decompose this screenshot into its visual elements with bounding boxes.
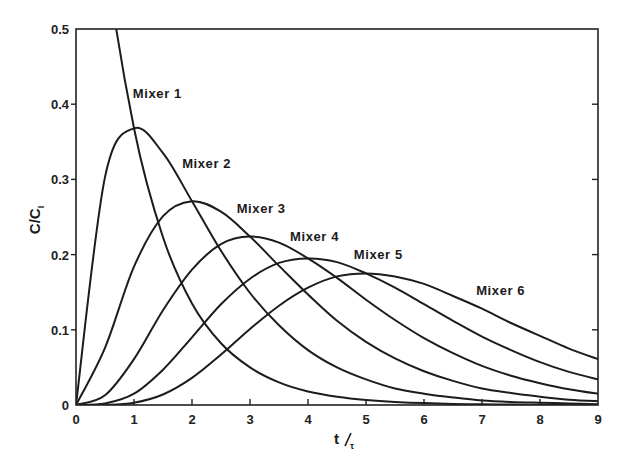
- y-tick-label: 0.1: [51, 323, 69, 338]
- x-tick-label: 5: [362, 412, 369, 427]
- series-line-mixer-5: [76, 258, 598, 405]
- series-label-mixer-3: Mixer 3: [237, 201, 286, 216]
- y-tick-label: 0.5: [51, 22, 69, 37]
- series-line-mixer-2: [76, 128, 598, 405]
- series-label-mixer-1: Mixer 1: [133, 86, 182, 101]
- y-tick-label: 0.2: [51, 248, 69, 263]
- x-tick-label: 7: [478, 412, 485, 427]
- series-labels: Mixer 1Mixer 2Mixer 3Mixer 4Mixer 5Mixer…: [133, 86, 525, 298]
- x-tick-label: 0: [72, 412, 79, 427]
- x-tick-label: 3: [246, 412, 253, 427]
- y-axis-title: C/CI: [26, 206, 46, 234]
- x-tick-label: 6: [420, 412, 427, 427]
- y-axis: 00.10.20.30.40.5: [51, 22, 598, 413]
- x-tick-label: 4: [304, 412, 312, 427]
- series-line-mixer-1: [76, 0, 598, 405]
- x-tick-label: 1: [130, 412, 137, 427]
- series-label-mixer-5: Mixer 5: [354, 247, 403, 262]
- x-tick-label: 8: [536, 412, 543, 427]
- chart: 0123456789 00.10.20.30.40.5 Mixer 1Mixer…: [0, 0, 621, 465]
- x-axis-title-sub: τ: [350, 441, 354, 451]
- x-tick-label: 2: [188, 412, 195, 427]
- y-axis-title-sub: I: [36, 206, 46, 209]
- x-axis-title-main: t: [334, 430, 339, 447]
- series-label-mixer-2: Mixer 2: [182, 156, 231, 171]
- y-tick-label: 0.3: [51, 172, 69, 187]
- x-axis-title: t τ: [334, 430, 354, 451]
- x-tick-label: 9: [594, 412, 601, 427]
- series-label-mixer-4: Mixer 4: [290, 229, 339, 244]
- y-tick-label: 0: [62, 398, 69, 413]
- series-label-mixer-6: Mixer 6: [476, 283, 525, 298]
- svg-text:C/CI: C/CI: [26, 206, 46, 234]
- y-axis-title-main: C/C: [26, 208, 43, 234]
- y-tick-label: 0.4: [51, 97, 70, 112]
- curves-group: [76, 0, 598, 405]
